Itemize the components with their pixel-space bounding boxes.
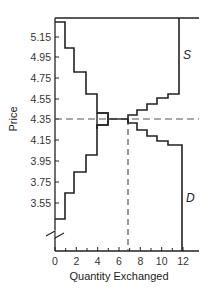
x-tick-label: 12 [177, 255, 189, 267]
supply-curve-right [128, 18, 179, 123]
demand-label: D [186, 191, 195, 205]
x-axis-title: Quantity Exchanged [69, 270, 168, 282]
y-tick-label: 4.15 [31, 134, 52, 146]
supply-curve [55, 125, 97, 219]
supply-label: S [183, 48, 191, 62]
y-tick-label: 3.75 [31, 176, 52, 188]
axis-break-icon [46, 231, 64, 238]
demand-curve-right [128, 119, 182, 251]
y-tick-label: 4.55 [31, 93, 52, 105]
y-tick-label: 5.15 [31, 31, 52, 43]
y-tick-label: 3.95 [31, 155, 52, 167]
y-tick-label: 4.95 [31, 51, 52, 63]
y-axis-title: Price [7, 106, 19, 131]
x-tick-labels: 0 2 4 6 8 10 12 [52, 255, 189, 267]
x-tick-label: 0 [52, 255, 58, 267]
x-tick-label: 10 [156, 255, 168, 267]
x-tick-label: 2 [73, 255, 79, 267]
supply-demand-chart: 5.15 4.95 4.75 4.55 4.35 4.15 3.95 3.75 … [0, 0, 211, 295]
y-tick-label: 3.55 [31, 197, 52, 209]
x-tick-label: 4 [95, 255, 101, 267]
y-tick-label: 4.75 [31, 72, 52, 84]
x-tick-label: 8 [137, 255, 143, 267]
y-tick-label: 4.35 [31, 113, 52, 125]
y-tick-labels: 5.15 4.95 4.75 4.55 4.35 4.15 3.95 3.75 … [31, 31, 52, 209]
x-tick-label: 6 [116, 255, 122, 267]
